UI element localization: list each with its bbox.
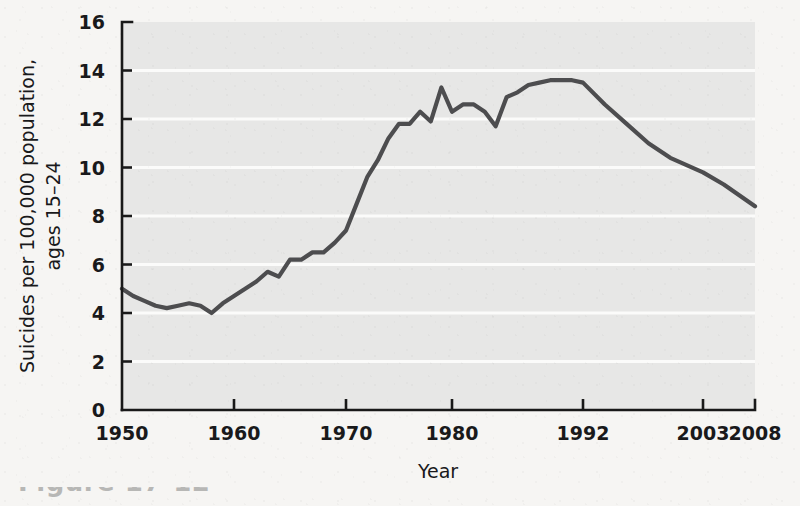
- line-chart: 0246810121416 19501960197019801992200320…: [0, 0, 800, 506]
- x-tick-label-1970: 1970: [320, 422, 373, 444]
- x-tick-label-1950: 1950: [96, 422, 149, 444]
- y-tick-label-12: 12: [79, 108, 105, 130]
- x-axis-tick-labels: 1950196019701980199220032008: [96, 422, 782, 444]
- y-axis-title-line2: ages 15–24: [42, 161, 64, 270]
- x-tick-label-2008: 2008: [729, 422, 782, 444]
- y-tick-label-6: 6: [92, 254, 105, 276]
- caption-fragment-text: Figure 17-12: [18, 487, 318, 495]
- x-axis-title: Year: [417, 460, 458, 482]
- caption-fragment: Figure 17-12: [18, 487, 318, 506]
- y-tick-label-14: 14: [79, 60, 105, 82]
- x-tick-label-2003: 2003: [677, 422, 730, 444]
- x-tick-label-1960: 1960: [208, 422, 261, 444]
- y-tick-label-4: 4: [92, 302, 105, 324]
- y-axis-tick-labels: 0246810121416: [79, 11, 105, 421]
- y-axis-title-line1: Suicides per 100,000 population,: [16, 59, 38, 373]
- y-tick-label-10: 10: [79, 157, 105, 179]
- y-tick-label-2: 2: [92, 351, 105, 373]
- y-tick-label-16: 16: [79, 11, 105, 33]
- figure-container: 0246810121416 19501960197019801992200320…: [0, 0, 800, 506]
- y-tick-label-0: 0: [92, 399, 105, 421]
- y-axis-title: Suicides per 100,000 population, ages 15…: [16, 59, 64, 373]
- y-tick-label-8: 8: [92, 205, 105, 227]
- x-tick-label-1980: 1980: [426, 422, 479, 444]
- x-tick-label-1992: 1992: [557, 422, 610, 444]
